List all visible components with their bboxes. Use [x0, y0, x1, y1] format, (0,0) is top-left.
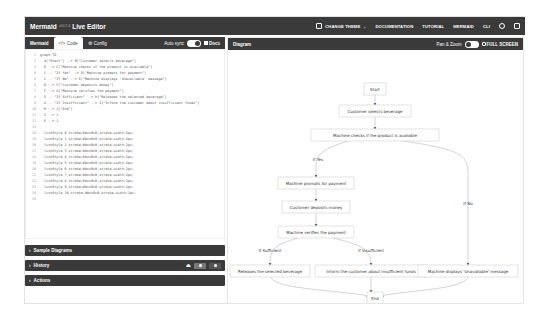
code-text: I --> J: [40, 113, 58, 117]
docs-label: Docs: [209, 41, 220, 46]
line-number: 16: [26, 143, 40, 147]
editor-pane: Mermaid </> Code ⚙ Config Auto sync Docs…: [25, 37, 225, 305]
history-accordion[interactable]: › History ⏏: [25, 260, 225, 271]
code-text: linkStyle 3 stroke:#bcc0c0,stroke-width:…: [40, 149, 134, 153]
code-line[interactable]: 25: [26, 196, 224, 202]
line-number: 5: [26, 77, 40, 81]
line-number: 21: [26, 173, 40, 177]
brand[interactable]: Mermaid v10.2.4 Live Editor: [30, 23, 106, 30]
history-saved-button[interactable]: [209, 263, 221, 269]
change-theme-button[interactable]: CHANGE THEME ⌄: [316, 23, 366, 29]
node-inform[interactable]: Inform the customer about insufficient f…: [315, 265, 427, 277]
node-check[interactable]: Machine checks if the product is availab…: [311, 129, 439, 141]
line-number: 18: [26, 155, 40, 159]
node-label: Machine displays 'Unavailable' message: [428, 269, 509, 274]
code-text: H --> J["End"]: [40, 107, 73, 111]
expand-icon: [482, 42, 486, 46]
tab-config[interactable]: ⚙ Config: [83, 37, 112, 49]
node-select[interactable]: Customer selects beverage: [339, 105, 411, 117]
chevron-right-icon: ›: [29, 248, 31, 253]
editor-title: Mermaid: [25, 37, 54, 49]
tab-config-label: Config: [94, 41, 107, 46]
app-window: Mermaid v10.2.4 Live Editor CHANGE THEME…: [24, 16, 524, 304]
diagram-header: Diagram Pan & Zoom FULL SCREEN: [228, 38, 523, 50]
chevron-down-icon: ⌄: [363, 24, 366, 29]
history-timeline-button[interactable]: [194, 263, 206, 269]
github-icon[interactable]: [499, 23, 505, 29]
code-text: A["Start"] --> B["Customer selects bever…: [40, 59, 136, 63]
code-text: G -- "If Insufficient" --> I["Inform the…: [40, 101, 199, 105]
line-number: 6: [26, 83, 40, 87]
flowchart[interactable]: StartCustomer selects beverageMachine ch…: [228, 50, 523, 303]
node-label: Machine verifies the payment: [286, 230, 346, 235]
book-icon: [204, 41, 208, 45]
code-text: linkStyle 10 stroke:#bcc0c0,stroke-width…: [40, 191, 136, 195]
code-editor[interactable]: 1graph TD2 A["Start"] --> B["Customer se…: [25, 49, 225, 239]
chevron-right-icon: ›: [29, 263, 31, 268]
auto-sync-toggle[interactable]: [187, 40, 201, 47]
code-text: linkStyle 8 stroke:#bcc0c0,stroke-width:…: [40, 179, 134, 183]
node-label: Machine prompts for payment: [286, 181, 347, 186]
node-label: End: [371, 296, 379, 301]
node-label: Releases the selected beverage: [238, 269, 302, 274]
edge-unavail-end: [381, 277, 468, 296]
code-text: linkStyle 4 stroke:#bcc0c0,stroke-width:…: [40, 155, 134, 159]
mermaid-chart-icon[interactable]: [514, 23, 520, 29]
line-number: 10: [26, 107, 40, 111]
code-text: B --> C{"Machine checks if the product i…: [40, 65, 152, 69]
save-icon[interactable]: ⏏: [186, 263, 191, 268]
docs-button[interactable]: Docs: [204, 41, 220, 46]
cli-link[interactable]: CLI: [483, 24, 490, 29]
code-text: G -- "If Sufficient" --> H["Releases the…: [40, 95, 167, 99]
node-label: Customer selects beverage: [348, 109, 403, 114]
accordion-label: History: [34, 263, 50, 268]
sample-diagrams-accordion[interactable]: › Sample Diagrams: [25, 245, 225, 256]
line-number: 13: [26, 125, 40, 129]
node-start[interactable]: Start: [364, 83, 386, 95]
node-verify[interactable]: Machine verifies the payment: [278, 226, 354, 238]
full-screen-button[interactable]: FULL SCREEN: [482, 42, 518, 47]
theme-icon: [316, 23, 322, 29]
diagram-pane: Diagram Pan & Zoom FULL SCREEN: [227, 37, 524, 304]
mermaid-link[interactable]: MERMAID: [453, 24, 474, 29]
code-text: linkStyle 5 stroke:#bcc0c0,stroke-width:…: [40, 161, 134, 165]
accordion-label: Actions: [34, 278, 51, 283]
accordion-label: Sample Diagrams: [34, 248, 73, 253]
actions-accordion[interactable]: › Actions: [25, 275, 225, 286]
line-number: 14: [26, 131, 40, 135]
pan-zoom-label: Pan & Zoom: [437, 42, 462, 47]
node-release[interactable]: Releases the selected beverage: [230, 265, 310, 277]
node-prompt[interactable]: Machine prompts for payment: [278, 177, 354, 189]
code-icon: </>: [59, 41, 66, 46]
product-name: Live Editor: [72, 23, 106, 30]
line-number: 8: [26, 95, 40, 99]
pan-zoom-toggle[interactable]: [465, 41, 479, 48]
code-text: D --> F["Customer deposits money"]: [40, 83, 114, 87]
line-number: 22: [26, 179, 40, 183]
node-label: Start: [370, 87, 380, 92]
code-text: linkStyle 1 stroke:#bcc0c0,stroke-width:…: [40, 137, 134, 141]
line-number: 25: [26, 197, 40, 201]
node-label: Machine checks if the product is availab…: [333, 133, 417, 138]
documentation-link[interactable]: DOCUMENTATION: [375, 24, 413, 29]
code-text: graph TD: [40, 53, 56, 57]
node-label: Customer deposits money: [290, 205, 343, 210]
node-end[interactable]: End: [367, 292, 383, 303]
node-deposit[interactable]: Customer deposits money: [282, 201, 350, 213]
line-number: 3: [26, 65, 40, 69]
node-label: Inform the customer about insufficient f…: [326, 269, 415, 274]
auto-sync-label: Auto sync: [164, 41, 184, 46]
edge-release-end: [270, 277, 369, 296]
full-screen-label: FULL SCREEN: [487, 42, 518, 47]
line-number: 19: [26, 161, 40, 165]
node-unavail[interactable]: Machine displays 'Unavailable' message: [418, 265, 518, 277]
code-text: F --> G{"Machine verifies the payment"}: [40, 89, 124, 93]
tutorial-link[interactable]: TUTORIAL: [422, 24, 444, 29]
edge-label-sufficient: If Sufficient: [259, 248, 282, 253]
line-number: 24: [26, 191, 40, 195]
tab-code[interactable]: </> Code: [54, 37, 83, 49]
code-text: [40, 125, 44, 129]
config-icon: ⚙: [88, 41, 92, 46]
line-number: 12: [26, 119, 40, 123]
line-number: 9: [26, 101, 40, 105]
